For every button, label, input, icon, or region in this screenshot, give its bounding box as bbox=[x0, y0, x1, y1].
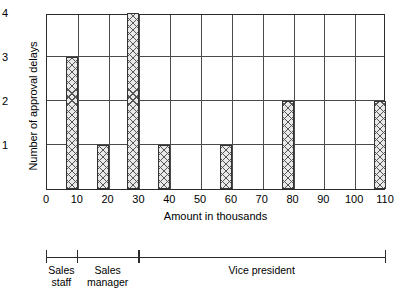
x-tick-label: 80 bbox=[278, 193, 308, 205]
bar bbox=[66, 57, 78, 189]
gridline-vertical bbox=[355, 15, 356, 189]
bracket-tick bbox=[385, 250, 386, 263]
bar bbox=[158, 145, 170, 189]
bar-chart-figure: Number of approval delays 1234 010203040… bbox=[0, 0, 403, 303]
bracket-tick bbox=[46, 250, 47, 263]
gridline-vertical bbox=[263, 15, 264, 189]
plot-area bbox=[46, 14, 385, 190]
x-tick-label: 100 bbox=[339, 193, 369, 205]
gridline-vertical bbox=[78, 15, 79, 189]
y-tick-label: 3 bbox=[0, 52, 8, 63]
gridline-horizontal bbox=[47, 100, 384, 101]
x-tick-label: 0 bbox=[31, 193, 61, 205]
x-axis-title: Amount in thousands bbox=[46, 210, 385, 222]
x-tick-label: 90 bbox=[308, 193, 338, 205]
x-tick-label: 20 bbox=[93, 193, 123, 205]
bar bbox=[374, 101, 386, 189]
y-tick-label: 4 bbox=[0, 8, 8, 19]
gridline-vertical bbox=[109, 15, 110, 189]
y-axis-title: Number of approval delays bbox=[27, 11, 39, 201]
gridline-vertical bbox=[201, 15, 202, 189]
bar bbox=[97, 145, 109, 189]
x-tick-label: 70 bbox=[247, 193, 277, 205]
gridline-vertical bbox=[139, 15, 140, 189]
category-label: Vice president bbox=[108, 264, 403, 276]
bracket-line bbox=[46, 257, 385, 258]
bar bbox=[220, 145, 232, 189]
y-tick-label: 2 bbox=[0, 96, 8, 107]
y-tick-label: 1 bbox=[0, 140, 8, 151]
x-tick-label: 30 bbox=[123, 193, 153, 205]
x-tick-label: 40 bbox=[154, 193, 184, 205]
x-tick-label: 10 bbox=[62, 193, 92, 205]
gridline-vertical bbox=[170, 15, 171, 189]
x-tick-label: 50 bbox=[185, 193, 215, 205]
bar bbox=[127, 13, 139, 189]
bracket-tick bbox=[138, 250, 139, 263]
gridline-vertical bbox=[294, 15, 295, 189]
x-tick-label: 110 bbox=[370, 193, 400, 205]
bar bbox=[282, 101, 294, 189]
gridline-vertical bbox=[232, 15, 233, 189]
gridline-horizontal bbox=[47, 56, 384, 57]
x-tick-label: 60 bbox=[216, 193, 246, 205]
bracket-tick bbox=[77, 250, 78, 263]
gridline-vertical bbox=[324, 15, 325, 189]
